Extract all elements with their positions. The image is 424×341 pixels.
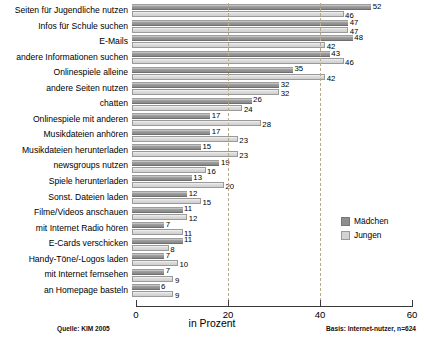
row-bars: 4346 xyxy=(132,50,424,66)
bar-value-label: 32 xyxy=(281,81,290,89)
bar-jungen xyxy=(132,214,187,220)
bar-value-label: 52 xyxy=(373,3,382,11)
x-tick xyxy=(136,300,137,307)
bar-jungen xyxy=(132,27,348,33)
chart-row: an Homepage basteln69 xyxy=(0,283,424,299)
chart-row: Musikdateien herunterladen1523 xyxy=(0,143,424,159)
bar-maedchen xyxy=(132,144,201,150)
bar-value-label: 48 xyxy=(354,34,363,42)
bar-maedchen xyxy=(132,284,160,290)
category-label: Sonst. Dateien laden xyxy=(0,190,132,205)
bar-maedchen xyxy=(132,4,371,10)
row-bars: 3542 xyxy=(132,65,424,81)
bar-value-label: 35 xyxy=(295,65,304,73)
row-bars: 710 xyxy=(132,252,424,268)
chart-row: Onlinespiele mit anderen1728 xyxy=(0,112,424,128)
chart-row: E-Mails4842 xyxy=(0,34,424,50)
gridline-40 xyxy=(320,3,321,306)
legend-label-maedchen: Mädchen xyxy=(354,216,388,226)
chart-rows: Seiten für Jugendliche nutzen5246Infos f… xyxy=(0,3,424,298)
category-label: andere Informationen suchen xyxy=(0,50,132,65)
x-tick xyxy=(228,300,229,307)
bar-maedchen xyxy=(132,51,330,57)
legend-label-jungen: Jungen xyxy=(354,230,381,240)
bar-value-label: 26 xyxy=(253,96,262,104)
category-label: Musikdateien herunterladen xyxy=(0,143,132,158)
category-label: Spiele herunterladen xyxy=(0,174,132,189)
bar-value-label: 9 xyxy=(175,292,179,300)
gridline-20 xyxy=(228,3,229,306)
category-label: Onlinespiele mit anderen xyxy=(0,112,132,127)
category-label: Musikdateien anhören xyxy=(0,127,132,142)
bar-jungen xyxy=(132,245,169,251)
category-label: Onlinespiele alleine xyxy=(0,65,132,80)
row-bars: 69 xyxy=(132,283,424,299)
bar-value-label: 15 xyxy=(203,143,212,151)
bar-maedchen xyxy=(132,253,164,259)
bar-jungen xyxy=(132,120,261,126)
row-bars: 4747 xyxy=(132,19,424,35)
bar-jungen xyxy=(132,58,344,64)
chart-row: Infos für Schule suchen4747 xyxy=(0,19,424,35)
bar-jungen xyxy=(132,182,224,188)
legend-swatch-jungen xyxy=(341,231,350,240)
bar-value-label: 12 xyxy=(189,190,198,198)
bar-value-label: 43 xyxy=(331,50,340,58)
bar-maedchen xyxy=(132,269,164,275)
bar-jungen xyxy=(132,105,242,111)
category-label: chatten xyxy=(0,96,132,111)
bar-maedchen xyxy=(132,175,192,181)
category-label: Infos für Schule suchen xyxy=(0,19,132,34)
row-bars: 4842 xyxy=(132,34,424,50)
bar-maedchen xyxy=(132,98,252,104)
bar-chart: Seiten für Jugendliche nutzen5246Infos f… xyxy=(0,0,424,341)
bar-value-label: 11 xyxy=(184,236,192,244)
bar-value-label: 7 xyxy=(166,252,170,260)
category-label: mit Internet fernsehen xyxy=(0,267,132,282)
row-bars: 2624 xyxy=(132,96,424,112)
chart-row: andere Informationen suchen4346 xyxy=(0,50,424,66)
bar-value-label: 7 xyxy=(166,267,170,275)
x-tick xyxy=(320,300,321,307)
bar-maedchen xyxy=(132,238,183,244)
bar-jungen xyxy=(132,291,173,297)
bar-jungen xyxy=(132,167,206,173)
basis-note: Basis: Internet-nutzer, n=624 xyxy=(326,325,416,332)
bar-value-label: 11 xyxy=(184,205,192,213)
chart-row: Sonst. Dateien laden1215 xyxy=(0,190,424,206)
bar-jungen xyxy=(132,151,238,157)
bar-jungen xyxy=(132,11,344,17)
row-bars: 1320 xyxy=(132,174,424,190)
bar-jungen xyxy=(132,229,183,235)
legend-item-jungen[interactable]: Jungen xyxy=(341,230,388,240)
chart-row: chatten2624 xyxy=(0,96,424,112)
bar-value-label: 17 xyxy=(212,112,221,120)
chart-row: andere Seiten nutzen3232 xyxy=(0,81,424,97)
row-bars: 79 xyxy=(132,267,424,283)
bar-jungen xyxy=(132,260,178,266)
bar-value-label: 6 xyxy=(161,283,165,291)
category-label: andere Seiten nutzen xyxy=(0,81,132,96)
chart-legend: Mädchen Jungen xyxy=(341,216,388,244)
category-label: E-Mails xyxy=(0,34,132,49)
chart-row: Handy-Töne/-Logos laden710 xyxy=(0,252,424,268)
chart-row: Seiten für Jugendliche nutzen5246 xyxy=(0,3,424,19)
source-note: Quelle: KIM 2005 xyxy=(57,325,110,332)
bar-maedchen xyxy=(132,191,187,197)
chart-row: Onlinespiele alleine3542 xyxy=(0,65,424,81)
row-bars: 1523 xyxy=(132,143,424,159)
legend-item-maedchen[interactable]: Mädchen xyxy=(341,216,388,226)
category-label: an Homepage basteln xyxy=(0,283,132,298)
bar-maedchen xyxy=(132,67,293,73)
bar-maedchen xyxy=(132,207,183,213)
row-bars: 1723 xyxy=(132,127,424,143)
bar-maedchen xyxy=(132,82,279,88)
category-label: newsgroups nutzen xyxy=(0,158,132,173)
chart-row: mit Internet fernsehen79 xyxy=(0,267,424,283)
bar-value-label: 7 xyxy=(166,221,170,229)
chart-row: Musikdateien anhören1723 xyxy=(0,127,424,143)
x-tick xyxy=(412,300,413,307)
bar-value-label: 17 xyxy=(212,128,221,136)
category-label: E-Cards verschicken xyxy=(0,236,132,251)
row-bars: 1215 xyxy=(132,190,424,206)
